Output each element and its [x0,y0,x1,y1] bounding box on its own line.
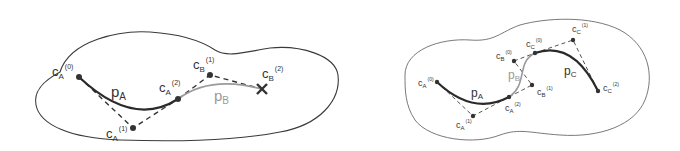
label-curve-p-b: pB [214,87,229,106]
point-c-b-1 [207,72,213,78]
point-c-a-2 [175,96,181,102]
point-c-c-0 [533,51,537,55]
left-region-outline [36,32,339,141]
point-c-a-1 [130,125,136,131]
label-c-c-0: cC(0) [526,37,542,50]
label-c-a-1: cA(1) [456,118,472,131]
point-c-b-0 [512,59,516,63]
diagram-canvas: cA(0) cA(1) cA(2) cB(1) cB(2) pA pB [0,0,680,151]
label-curve-p-b: pB [508,68,520,83]
label-c-a-2: cA(2) [159,79,180,97]
label-c-c-1: cC(1) [572,22,588,35]
label-c-c-2: cC(2) [603,81,619,94]
point-c-a-2 [507,95,511,99]
point-c-a-0 [435,80,439,84]
label-curve-p-c: pC [564,64,577,79]
right-panel: cA(0) cA(1) cA(2) cB(0) cB(1) cC(0) cC(1… [405,19,649,140]
label-c-a-2: cA(2) [505,101,521,114]
label-c-b-0: cB(0) [496,49,512,62]
label-curve-p-a: pA [471,86,484,101]
label-c-a-0: cA(0) [418,76,434,89]
label-c-b-2: cB(2) [262,65,283,83]
point-c-a-0 [76,74,82,80]
point-c-b-1 [530,83,534,87]
cross-marker-icon [257,84,267,94]
label-c-b-1: cB(1) [193,56,214,74]
label-c-b-1: cB(1) [537,85,553,98]
left-panel: cA(0) cA(1) cA(2) cB(1) cB(2) pA pB [36,32,339,143]
right-region-outline [405,19,649,140]
point-c-c-1 [571,38,575,42]
point-c-c-2 [596,89,600,93]
label-curve-p-a: pA [111,83,126,102]
